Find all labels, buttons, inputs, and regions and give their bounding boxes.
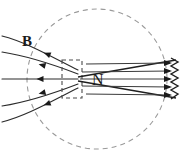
arrowhead-right-3 [164,76,172,82]
arrowhead-left-3 [37,76,44,82]
field-line-lower-inner [2,84,78,106]
arrowhead-right-2 [164,68,172,74]
arrowhead-left-1 [43,50,52,58]
pole-label-n: N [92,71,104,88]
magnet-right-jagged-edge [171,58,178,99]
field-line-upper-inner [2,52,78,74]
field-label-b: B [22,33,32,49]
figure-container: B N [0,0,195,158]
arrowhead-right-4 [164,84,172,90]
arrowhead-left-5 [43,100,52,108]
magnetic-field-diagram: B N [0,0,195,158]
